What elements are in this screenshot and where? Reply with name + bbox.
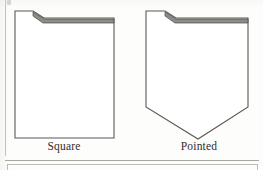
caption-pointed: Pointed — [146, 140, 252, 152]
figure-page: Square Pointed — [0, 0, 263, 170]
pointed-envelope-outline — [146, 11, 248, 139]
square-envelope-outline — [15, 11, 114, 138]
figure-bottom-rule — [5, 160, 259, 161]
caption-square: Square — [14, 140, 114, 152]
envelope-square-flap-icon — [14, 8, 116, 140]
envelope-pointed-flap-icon — [145, 8, 253, 142]
envelope-pointed-figure — [145, 8, 253, 142]
envelope-square-figure — [14, 8, 116, 140]
page-left-rule — [5, 0, 6, 156]
next-figure-frame — [7, 164, 258, 170]
scan-smudge — [7, 0, 11, 5]
